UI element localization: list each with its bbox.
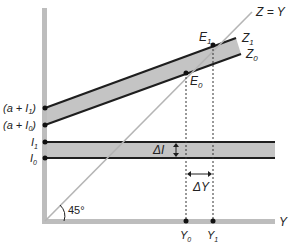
delta-i-label: ΔI	[152, 143, 165, 157]
diagonal-z-equals-y	[45, 12, 252, 221]
i0-label: I0	[30, 152, 37, 166]
z0-line	[45, 54, 241, 125]
z1-line	[45, 38, 236, 108]
a-plus-i1-label: (a + I1)	[3, 102, 36, 115]
keynesian-cross-diagram: Z = Y Z1 Z0 E1 E0 (a + I1) (a + I0) I1 I…	[0, 0, 290, 246]
y0-label: Y0	[180, 229, 191, 243]
delta-y-arrow	[187, 171, 212, 177]
z1-label: Z1	[241, 31, 254, 47]
a-i1-dot	[43, 106, 48, 111]
i1-label: I1	[31, 136, 38, 150]
y1-label: Y1	[207, 229, 218, 243]
a-i0-dot	[43, 123, 48, 128]
e0-label: E0	[190, 74, 203, 90]
vertical-axis	[42, 8, 47, 224]
a-plus-i0-label: (a + I0)	[3, 119, 36, 132]
z0-label: Z0	[245, 47, 258, 63]
delta-y-label: ΔY	[192, 180, 210, 194]
y1-dot	[211, 219, 216, 224]
e1-label: E1	[199, 30, 211, 46]
demand-band	[45, 38, 241, 125]
diagonal-label: Z = Y	[255, 5, 286, 19]
y0-dot	[184, 219, 189, 224]
i1-dot	[43, 140, 48, 145]
y-axis-label: Y	[279, 215, 288, 229]
i0-dot	[43, 156, 48, 161]
angle-arc	[60, 205, 65, 221]
e0-dot	[184, 71, 189, 76]
angle-label: 45°	[68, 204, 85, 216]
horizontal-axis	[42, 219, 275, 224]
